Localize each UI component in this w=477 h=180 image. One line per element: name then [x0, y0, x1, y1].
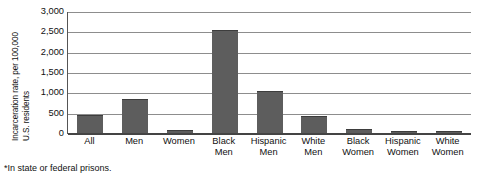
category-label-line: White: [425, 136, 470, 147]
y-axis-tick-label: 0: [26, 129, 64, 138]
bar-slot: [247, 12, 292, 134]
x-axis-category-label: BlackMen: [201, 136, 246, 162]
bar-slot: [381, 12, 426, 134]
category-label-line: Men: [112, 136, 157, 147]
x-axis-category-labels: AllMenWomenBlackMenHispanicMenWhiteMenBl…: [67, 136, 470, 162]
category-label-line: Black: [336, 136, 381, 147]
bar-slot: [158, 12, 203, 134]
bar[interactable]: [122, 99, 148, 134]
y-axis-title-line-1: Incarceration rate, per 100,000: [11, 32, 20, 141]
category-label-line: Hispanic: [246, 136, 291, 147]
category-label-line: All: [67, 136, 112, 147]
bar-slot: [337, 12, 382, 134]
y-axis-tick-label: 1,000: [26, 89, 64, 98]
y-axis-tick-label: 2,500: [26, 28, 64, 37]
category-label-line: Men: [246, 147, 291, 158]
x-axis-category-label: Women: [157, 136, 202, 162]
y-axis-tick-labels: 3,0002,5002,0001,5001,0005000: [26, 0, 64, 145]
bar-slot: [426, 12, 471, 134]
category-label-line: Hispanic: [380, 136, 425, 147]
bar-slot: [292, 12, 337, 134]
bar[interactable]: [257, 91, 283, 134]
category-label-line: Women: [425, 147, 470, 158]
x-axis-category-label: Men: [112, 136, 157, 162]
footnote: *In state or federal prisons.: [4, 163, 112, 173]
bar-slot: [68, 12, 113, 134]
bar-series: [68, 12, 471, 134]
bar[interactable]: [77, 115, 103, 134]
category-label-line: Women: [336, 147, 381, 158]
x-axis-category-label: HispanicMen: [246, 136, 291, 162]
y-axis-tick-label: 3,000: [26, 7, 64, 16]
category-label-line: Black: [201, 136, 246, 147]
x-axis-category-label: BlackWomen: [336, 136, 381, 162]
incarceration-rate-bar-chart: Incarceration rate, per 100,000 U.S. res…: [0, 0, 477, 180]
bar[interactable]: [212, 30, 238, 134]
x-axis-baseline: [68, 133, 471, 135]
y-axis-tick-label: 500: [26, 109, 64, 118]
x-axis-category-label: All: [67, 136, 112, 162]
x-axis-category-label: WhiteWomen: [425, 136, 470, 162]
bar-slot: [113, 12, 158, 134]
category-label-line: White: [291, 136, 336, 147]
bar-slot: [202, 12, 247, 134]
plot-area: [67, 12, 471, 134]
category-label-line: Women: [157, 136, 202, 147]
category-label-line: Men: [291, 147, 336, 158]
x-axis-category-label: WhiteMen: [291, 136, 336, 162]
x-axis-category-label: HispanicWomen: [380, 136, 425, 162]
y-axis-tick-label: 2,000: [26, 48, 64, 57]
y-axis-tick-label: 1,500: [26, 68, 64, 77]
category-label-line: Men: [201, 147, 246, 158]
category-label-line: Women: [380, 147, 425, 158]
bar[interactable]: [301, 116, 327, 134]
